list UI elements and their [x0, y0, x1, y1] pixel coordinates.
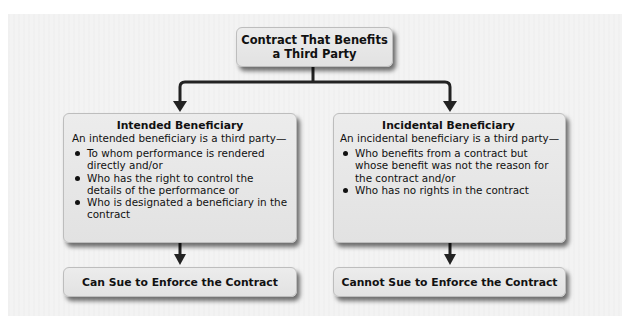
- arrow-down-icon: [173, 101, 187, 112]
- intended-beneficiary-title: Intended Beneficiary: [72, 120, 288, 132]
- bullet-item: Who has the right to control the details…: [72, 172, 288, 196]
- bullet-item: Who benefits from a contract but whose b…: [340, 147, 557, 184]
- bullet-item: To whom performance is rendered directly…: [72, 147, 288, 171]
- intended-beneficiary-bullets: To whom performance is rendered directly…: [72, 147, 288, 220]
- outcome-can-sue-label: Can Sue to Enforce the Contract: [82, 276, 278, 289]
- incidental-beneficiary-intro: An incidental beneficiary is a third par…: [340, 132, 557, 144]
- incidental-beneficiary-title: Incidental Beneficiary: [340, 120, 557, 132]
- root-node-line1: Contract That Benefits: [241, 33, 388, 47]
- bullet-item: Who is designated a beneficiary in the c…: [72, 196, 288, 220]
- root-node-contract-benefits-third-party: Contract That Benefits a Third Party: [236, 27, 393, 67]
- outcome-can-sue-node: Can Sue to Enforce the Contract: [63, 267, 297, 297]
- bullet-item: Who has no rights in the contract: [340, 184, 557, 196]
- incidental-beneficiary-node: Incidental Beneficiary An incidental ben…: [333, 113, 566, 243]
- incidental-beneficiary-bullets: Who benefits from a contract but whose b…: [340, 147, 557, 196]
- outcome-cannot-sue-label: Cannot Sue to Enforce the Contract: [341, 276, 557, 289]
- arrow-down-icon: [174, 254, 186, 265]
- outcome-cannot-sue-node: Cannot Sue to Enforce the Contract: [333, 267, 566, 297]
- intended-beneficiary-node: Intended Beneficiary An intended benefic…: [63, 113, 297, 243]
- arrow-down-icon: [444, 254, 456, 265]
- intended-beneficiary-intro: An intended beneficiary is a third party…: [72, 132, 288, 144]
- arrow-down-icon: [443, 101, 457, 112]
- root-node-line2: a Third Party: [272, 47, 356, 61]
